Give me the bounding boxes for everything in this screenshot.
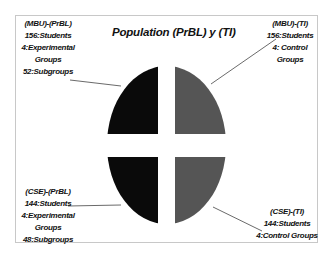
label-groups: 4:Experimental: [16, 210, 80, 222]
label-groups: 4:Experimental: [16, 42, 80, 54]
label-groups-cont: Groups: [16, 54, 80, 66]
label-bottom-right-cse-ti: (CSE)-(TI) 144:Students 4:Control Groups: [256, 206, 318, 242]
label-top-left-mbu-prbl: (MBU)-(PrBL) 156:Students 4:Experimental…: [16, 18, 80, 78]
label-students: 144:Students: [16, 198, 80, 210]
label-groups: 4: Control: [262, 42, 318, 54]
leader-line-bottom-right: [213, 207, 262, 231]
label-groups-cont: Groups: [262, 54, 318, 66]
label-bottom-left-cse-prbl: (CSE)-(PrBL) 144:Students 4:Experimental…: [16, 186, 80, 246]
label-students: 144:Students: [256, 218, 318, 230]
label-group-name: (CSE)-(PrBL): [16, 186, 80, 198]
label-group-name: (CSE)-(TI): [256, 206, 318, 218]
label-students: 156:Students: [262, 30, 318, 42]
label-group-name: (MBU)-(TI): [262, 18, 318, 30]
label-groups: 4:Control Groups: [256, 230, 318, 242]
label-subgroups: 52:Subgroups: [16, 66, 80, 78]
leader-line-top-left: [70, 80, 121, 86]
label-students: 156:Students: [16, 30, 80, 42]
label-top-right-mbu-ti: (MBU)-(TI) 156:Students 4: Control Group…: [262, 18, 318, 66]
label-subgroups: 48:Subgroups: [16, 234, 80, 246]
label-group-name: (MBU)-(PrBL): [16, 18, 80, 30]
label-groups-cont: Groups: [16, 222, 80, 234]
